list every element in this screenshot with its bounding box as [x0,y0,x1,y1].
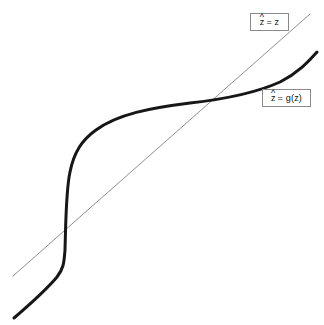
label-identity-line: ^ z = z [250,13,289,31]
identity-equation-text: = z [266,18,279,27]
z-hat-symbol: ^ z [271,93,276,103]
figure-canvas: ^ z = z ^ z = g(z) [0,0,324,325]
plot-svg [0,0,324,325]
plot-background [0,0,324,325]
gfun-equation-text: = g(z) [278,94,302,103]
z-hat-symbol: ^ z [260,17,265,27]
hat-accent-icon: ^ [260,13,264,22]
hat-accent-icon: ^ [271,89,275,98]
label-g-function-curve: ^ z = g(z) [262,89,311,107]
